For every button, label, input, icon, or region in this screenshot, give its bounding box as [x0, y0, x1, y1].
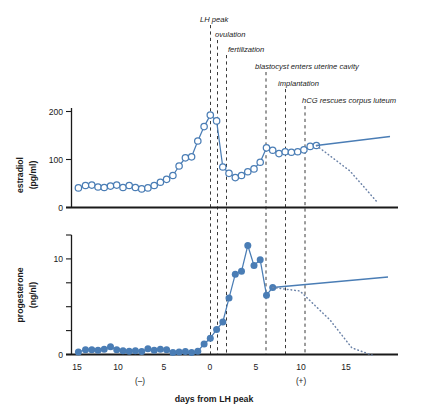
xtick-plus-5: 5 [254, 362, 259, 372]
x-axis-negative-marker: (–) [135, 377, 145, 386]
xtick-plus-10: 10 [296, 362, 306, 372]
hormone-cycle-chart: LH peak ovulation fertilization blastocy… [0, 0, 422, 417]
estradiol-data-points [75, 112, 319, 192]
progesterone-no-pregnancy-branch [273, 288, 372, 356]
annotation-label-blastocyst: blastocyst enters uterine cavity [255, 62, 360, 71]
x-axis-title: days from LH peak [175, 394, 254, 404]
estradiol-axis-label: estradiol [15, 157, 25, 193]
estradiol-axis-units: (pg/ml) [28, 161, 38, 190]
xtick-minus-5: 5 [162, 362, 167, 372]
progesterone-panel: progesterone (ng/nl) 10 0 [15, 235, 398, 360]
estradiol-panel: estradiol (pg/ml) 200 100 0 [15, 107, 398, 213]
progesterone-ytick-10: 10 [53, 254, 63, 264]
progesterone-axis-units: (ng/nl) [28, 282, 38, 308]
annotation-label-implantation: implantation [278, 79, 319, 88]
estradiol-pregnancy-branch [316, 137, 390, 146]
estradiol-y-axis [66, 108, 72, 208]
annotation-label-ovulation: ovulation [215, 30, 245, 39]
annotation-guide-lines [211, 25, 306, 355]
progesterone-data-points [75, 242, 276, 356]
progesterone-y-axis [66, 235, 72, 355]
annotation-label-hcg: hCG rescues corpus luteum [302, 96, 396, 105]
progesterone-ytick-0: 0 [58, 350, 63, 360]
progesterone-axis-label: progesterone [15, 267, 25, 322]
estradiol-ytick-0: 0 [58, 203, 63, 213]
estradiol-ytick-100: 100 [49, 155, 64, 165]
x-axis-tick-labels: 15 10 5 0 5 10 15 [72, 362, 351, 372]
annotation-label-lh-peak: LH peak [200, 15, 229, 24]
xtick-plus-15: 15 [341, 362, 351, 372]
xtick-minus-10: 10 [113, 362, 123, 372]
x-axis-positive-marker: (+) [296, 377, 307, 386]
estradiol-ytick-200: 200 [49, 107, 64, 117]
annotation-label-fertilization: fertilization [228, 45, 264, 54]
estradiol-no-pregnancy-branch [316, 146, 378, 204]
xtick-minus-15: 15 [72, 362, 82, 372]
progesterone-pregnancy-branch [273, 277, 388, 288]
figure-container: LH peak ovulation fertilization blastocy… [0, 0, 422, 417]
progesterone-series-line [78, 246, 272, 353]
xtick-zero: 0 [208, 362, 213, 372]
